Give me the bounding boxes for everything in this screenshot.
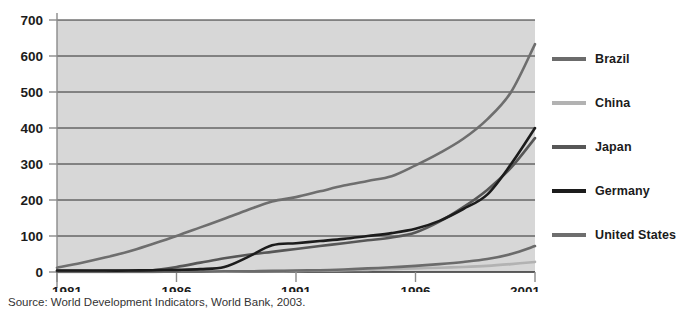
x-tick-label: 1996 [400, 284, 431, 292]
x-tick-label: 1986 [161, 284, 192, 292]
legend-item-brazil[interactable]: Brazil [552, 51, 630, 67]
legend-swatch-icon [552, 145, 586, 149]
legend-item-china[interactable]: China [552, 95, 630, 111]
y-tick-label: 600 [20, 49, 43, 64]
legend-label: Germany [595, 184, 650, 198]
y-tick-mark-group [49, 20, 57, 272]
plot-background [57, 20, 535, 272]
y-tick-label-group: 0100200300400500600700 [20, 13, 43, 280]
y-tick-label: 700 [20, 13, 43, 28]
y-tick-label: 500 [20, 85, 43, 100]
line-chart: 0100200300400500600700 19811986199119962… [0, 0, 545, 292]
y-tick-label: 200 [20, 193, 43, 208]
x-tick-label-group: 19811986199119962001 [52, 284, 541, 292]
x-tick-label: 1991 [281, 284, 312, 292]
legend-item-japan[interactable]: Japan [552, 139, 632, 155]
y-tick-label: 0 [35, 265, 43, 280]
legend-swatch-icon [552, 101, 586, 105]
chart-plot-region: 0100200300400500600700 19811986199119962… [0, 0, 545, 292]
legend-label: United States [595, 228, 676, 242]
legend-label: Brazil [595, 52, 630, 66]
chart-legend: BrazilChinaJapanGermanyUnited States [552, 0, 686, 292]
x-tick-mark-group [57, 272, 535, 282]
legend-label: Japan [595, 140, 632, 154]
y-tick-label: 100 [20, 229, 43, 244]
plot-background-group [57, 20, 535, 272]
x-tick-label: 2001 [510, 284, 541, 292]
legend-label: China [595, 96, 630, 110]
legend-item-united-states[interactable]: United States [552, 227, 676, 243]
legend-swatch-icon [552, 189, 586, 193]
figure-container: 0100200300400500600700 19811986199119962… [0, 0, 686, 315]
y-tick-label: 300 [20, 157, 43, 172]
y-tick-label: 400 [20, 121, 43, 136]
legend-swatch-icon [552, 233, 586, 237]
x-tick-label: 1981 [52, 284, 83, 292]
legend-swatch-icon [552, 57, 586, 61]
legend-item-germany[interactable]: Germany [552, 183, 650, 199]
source-caption: Source: World Development Indicators, Wo… [8, 296, 305, 308]
